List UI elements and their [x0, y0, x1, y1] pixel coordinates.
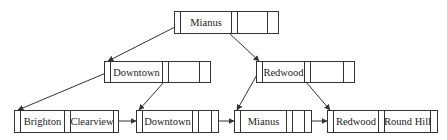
key-cell: Redwood — [334, 111, 379, 132]
key-cell — [199, 111, 212, 132]
key-cell: Brighton — [21, 111, 65, 132]
edge-root-to-left — [108, 26, 177, 61]
leaf-node-2: Downtown — [136, 110, 219, 133]
pointer-cell — [212, 111, 218, 132]
edge-left-to-leaf1 — [18, 73, 106, 110]
key-cell — [293, 111, 305, 132]
edge-right-to-leaf3 — [237, 73, 258, 110]
internal-node-right: Redwood — [256, 61, 355, 83]
key-cell: Downtown — [143, 111, 193, 132]
leaf-node-4: Redwood Round Hill — [327, 110, 438, 133]
pointer-cell — [114, 111, 120, 132]
internal-node-left: Downtown — [104, 61, 211, 83]
edge-root-to-right — [229, 33, 259, 61]
key-cell: Mianus — [241, 111, 287, 132]
pointer-cell — [305, 111, 311, 132]
pointer-cell — [268, 12, 274, 33]
key-cell: Round Hill — [385, 111, 431, 132]
key-cell — [311, 62, 344, 82]
leaf-node-1: Brighton Clearview — [14, 110, 119, 133]
pointer-cell — [431, 111, 437, 132]
root-node: Mianus — [174, 11, 279, 34]
key-cell — [169, 62, 200, 82]
key-cell: Mianus — [181, 12, 232, 33]
key-cell: Redwood — [263, 62, 305, 82]
pointer-cell — [344, 62, 350, 82]
edge-left-to-leaf2 — [139, 82, 164, 110]
leaf-node-3: Mianus — [234, 110, 312, 133]
key-cell: Clearview — [71, 111, 114, 132]
key-cell: Downtown — [111, 62, 163, 82]
edge-right-to-leaf4 — [306, 82, 330, 110]
pointer-cell — [200, 62, 206, 82]
key-cell — [238, 12, 268, 33]
